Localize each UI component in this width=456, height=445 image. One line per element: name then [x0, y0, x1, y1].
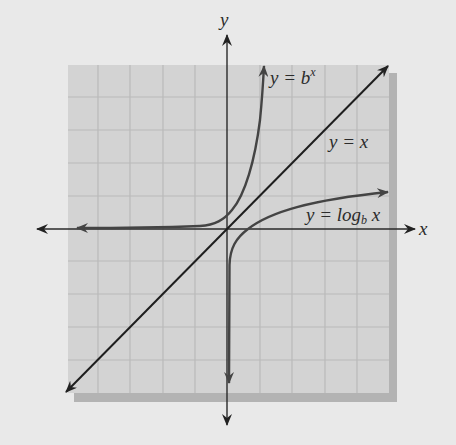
- y-axis-label: y: [220, 10, 228, 29]
- graph-figure: y x y = bx y = x y = logb x: [0, 0, 456, 445]
- identity-label: y = x: [329, 132, 368, 151]
- exponential-label-text: y = b: [270, 67, 310, 88]
- exponential-label-exponent: x: [310, 65, 315, 79]
- x-axis-label: x: [419, 219, 427, 238]
- plot-area: [0, 0, 456, 445]
- exponential-label: y = bx: [270, 66, 316, 87]
- logarithmic-label-suffix: x: [367, 204, 380, 225]
- logarithmic-label-prefix: y = log: [306, 204, 361, 225]
- logarithmic-label: y = logb x: [306, 205, 380, 226]
